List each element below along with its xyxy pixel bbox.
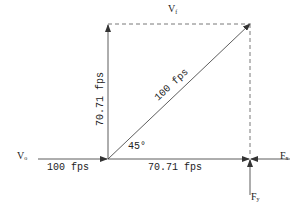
fx-label: Fx [280, 150, 289, 161]
v-final-label: Vf [168, 3, 177, 15]
fy-label: Fy [251, 191, 260, 202]
v-initial-label: Vo [17, 150, 27, 161]
velocity-vector-diagram: Vf Vo Fx Fy 100 fps 70.71 fps 70.71 fps … [0, 0, 298, 211]
resultant-vector-line [108, 24, 250, 159]
resultant-label: 100 fps [153, 66, 191, 103]
x-component-label: 70.71 fps [148, 162, 202, 173]
initial-speed-label: 100 fps [47, 162, 89, 173]
angle-label: 45° [128, 141, 146, 152]
y-component-label: 70.71 fps [95, 72, 106, 126]
